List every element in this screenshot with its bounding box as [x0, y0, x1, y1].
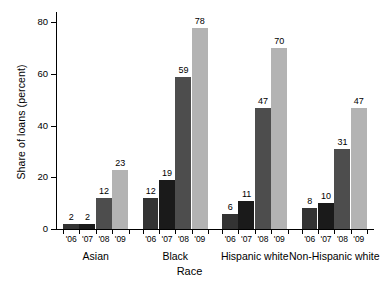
x-axis-tick: [129, 230, 130, 234]
x-axis-line: [56, 229, 374, 230]
x-axis-tick: [222, 230, 223, 234]
x-axis-tick: [367, 230, 368, 234]
x-axis-tick: [238, 230, 239, 234]
bar: [79, 224, 95, 229]
x-axis-tick-label: '09: [268, 235, 290, 244]
y-axis-tick-label: 60: [24, 69, 48, 79]
bar: [143, 198, 159, 229]
bar-value-label: 78: [188, 17, 212, 26]
bar: [159, 180, 175, 229]
x-axis-tick: [112, 230, 113, 234]
x-axis-tick-label: '09: [109, 235, 131, 244]
x-axis-tick: [96, 230, 97, 234]
x-axis-tick: [351, 230, 352, 234]
bar: [238, 201, 254, 229]
y-axis-tick-label: 40: [24, 121, 48, 131]
bar-value-label: 23: [108, 159, 132, 168]
y-axis-tick-label: 80: [24, 17, 48, 27]
bar: [96, 198, 112, 229]
bar: [334, 149, 350, 229]
x-axis-tick: [159, 230, 160, 234]
x-axis-tick: [302, 230, 303, 234]
x-axis-tick-label: '09: [348, 235, 370, 244]
bar: [318, 203, 334, 229]
x-axis-tick: [271, 230, 272, 234]
bar: [302, 208, 318, 229]
bar-value-label: 70: [267, 37, 291, 46]
x-axis-tick: [63, 230, 64, 234]
x-axis-tick: [288, 230, 289, 234]
bar: [255, 108, 271, 229]
bar: [271, 48, 287, 229]
group-label: Non-Hispanic white: [279, 250, 384, 262]
x-axis-tick: [175, 230, 176, 234]
y-axis-tick-label: 20: [24, 172, 48, 182]
bar: [351, 108, 367, 229]
bar: [112, 170, 128, 229]
bar: [192, 28, 208, 230]
x-axis-tick: [79, 230, 80, 234]
x-axis-tick: [208, 230, 209, 234]
bar: [63, 224, 79, 229]
bar: [222, 214, 238, 230]
x-axis-tick: [318, 230, 319, 234]
plot-area: 2212231219597861147708103147: [56, 12, 374, 229]
x-axis-tick: [255, 230, 256, 234]
y-axis-tick-label: 0: [24, 224, 48, 234]
x-axis-tick: [143, 230, 144, 234]
x-axis-tick-label: '09: [189, 235, 211, 244]
x-axis-tick: [192, 230, 193, 234]
bar: [175, 77, 191, 229]
x-axis-title: Race: [0, 265, 379, 278]
bar-value-label: 47: [347, 97, 371, 106]
x-axis-tick: [334, 230, 335, 234]
